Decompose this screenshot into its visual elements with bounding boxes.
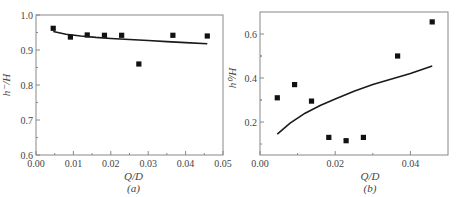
- data-point: [275, 95, 280, 100]
- data-point: [361, 135, 366, 140]
- data-point: [170, 33, 175, 38]
- y-tick-label: 0.2: [245, 117, 258, 128]
- y-tick-label: 0.8: [21, 80, 34, 91]
- x-tick-label: 0.04: [402, 158, 420, 169]
- plot-frame: [260, 12, 448, 155]
- y-tick-label: 0.9: [21, 45, 34, 56]
- x-tick-label: 0.03: [139, 158, 157, 169]
- x-tick-label: 0.00: [251, 158, 269, 169]
- data-point: [344, 138, 349, 143]
- x-tick-label: 0.02: [326, 158, 344, 169]
- chart-panel-b: 0.000.020.040.20.40.6Q/D(b)h⁰/H: [226, 12, 448, 195]
- data-point: [51, 26, 56, 31]
- x-axis-label: Q/D: [124, 170, 143, 182]
- data-point: [136, 61, 141, 66]
- data-point: [395, 53, 400, 58]
- y-tick-label: 1.0: [21, 10, 34, 21]
- x-tick-label: 0.04: [177, 158, 195, 169]
- data-point: [309, 99, 314, 104]
- y-axis-label: h⁰/H: [226, 67, 238, 89]
- x-axis-label: Q/D: [361, 170, 380, 182]
- y-tick-label: 0.6: [245, 29, 258, 40]
- data-point: [326, 135, 331, 140]
- panel-label: (b): [364, 182, 377, 195]
- data-point: [119, 33, 124, 38]
- data-point: [292, 82, 297, 87]
- plot-frame: [36, 15, 223, 155]
- figure: 0.000.010.020.030.040.050.60.70.80.91.0Q…: [0, 0, 457, 197]
- panel-label: (a): [127, 182, 140, 195]
- chart-panel-a: 0.000.010.020.030.040.050.60.70.80.91.0Q…: [0, 10, 232, 196]
- fit-curve: [277, 66, 432, 134]
- x-tick-label: 0.02: [102, 158, 120, 169]
- y-axis-label: h⁻/H: [0, 73, 12, 97]
- data-point: [205, 33, 210, 38]
- y-tick-label: 0.7: [21, 115, 34, 126]
- data-point: [430, 19, 435, 24]
- fit-curve: [53, 31, 207, 43]
- y-tick-label: 0.4: [245, 73, 258, 84]
- y-tick-label: 0.6: [21, 150, 34, 161]
- x-tick-label: 0.05: [214, 158, 232, 169]
- x-tick-label: 0.01: [65, 158, 83, 169]
